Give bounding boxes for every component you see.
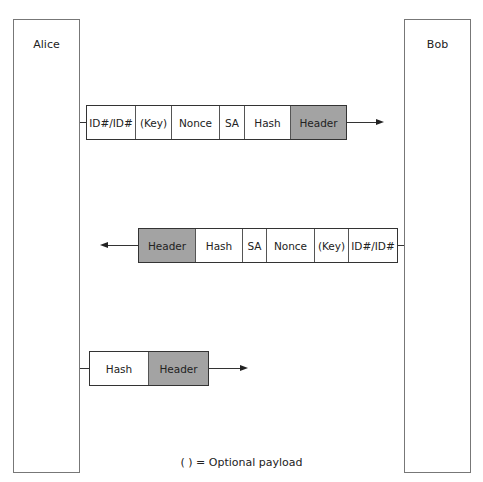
bob-label: Bob	[405, 38, 470, 51]
message-1-arrow-line	[347, 122, 377, 123]
message-3-arrow-line	[209, 368, 241, 369]
message-2-arrow-line	[107, 245, 138, 246]
field-key: (Key)	[315, 229, 349, 262]
alice-box: Alice	[13, 19, 80, 473]
arrow-right-icon	[376, 119, 384, 125]
message-1: ID#/ID# (Key) Nonce SA Hash Header	[86, 105, 347, 140]
field-sa: SA	[243, 229, 267, 262]
field-header: Header	[139, 229, 196, 262]
field-sa: SA	[220, 106, 245, 139]
field-hash: Hash	[245, 106, 291, 139]
field-header: Header	[149, 352, 208, 385]
field-key: (Key)	[136, 106, 172, 139]
field-hash: Hash	[90, 352, 149, 385]
message-2-connector	[397, 245, 404, 246]
field-hash: Hash	[196, 229, 243, 262]
field-id: ID#/ID#	[349, 229, 397, 262]
legend-note: ( ) = Optional payload	[0, 456, 483, 469]
arrow-left-icon	[100, 242, 108, 248]
field-nonce: Nonce	[267, 229, 315, 262]
message-3-connector	[80, 368, 89, 369]
message-3: Hash Header	[89, 351, 209, 386]
field-nonce: Nonce	[172, 106, 220, 139]
arrow-right-icon	[240, 365, 248, 371]
alice-label: Alice	[14, 38, 79, 51]
field-header: Header	[291, 106, 346, 139]
bob-box: Bob	[404, 19, 471, 473]
field-id: ID#/ID#	[87, 106, 136, 139]
message-2: Header Hash SA Nonce (Key) ID#/ID#	[138, 228, 398, 263]
